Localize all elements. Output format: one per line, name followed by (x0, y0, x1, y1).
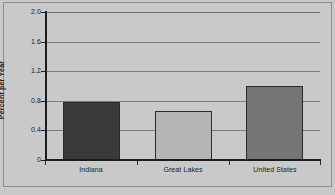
chart-figure: 2.0 1.6 1.2 0.8 0.4 0 Percent per Year I… (0, 0, 335, 195)
x-tick-mark-1 (137, 161, 138, 165)
y-tick-mark-0-4 (41, 130, 46, 131)
y-tick-mark-0-8 (41, 101, 46, 102)
y-axis-line (45, 11, 47, 161)
x-label-united-states: United States (229, 166, 321, 173)
y-tick-label-0: 0 (5, 156, 41, 163)
x-label-great-lakes: Great Lakes (137, 166, 229, 173)
y-tick-label-2-0: 2.0 (5, 8, 41, 15)
x-tick-mark-start (45, 161, 46, 165)
x-axis-line (45, 159, 321, 161)
gridline-2-0 (45, 12, 320, 13)
gridline-1-6 (45, 42, 320, 43)
gridline-1-2 (45, 71, 320, 72)
x-label-indiana: Indiana (45, 166, 137, 173)
y-tick-mark-1-2 (41, 71, 46, 72)
y-axis-title: Percent per Year (0, 50, 5, 130)
y-tick-mark-2-0 (41, 12, 46, 13)
bar-indiana (63, 102, 120, 160)
y-tick-label-0-4: 0.4 (5, 126, 41, 133)
y-tick-mark-1-6 (41, 42, 46, 43)
bar-united-states (246, 86, 303, 160)
y-tick-label-0-8: 0.8 (5, 97, 41, 104)
bar-great-lakes (155, 111, 212, 160)
x-tick-mark-2 (229, 161, 230, 165)
y-tick-label-1-6: 1.6 (5, 38, 41, 45)
y-tick-label-1-2: 1.2 (5, 67, 41, 74)
x-tick-mark-end (320, 161, 321, 165)
plot-area (45, 12, 320, 160)
